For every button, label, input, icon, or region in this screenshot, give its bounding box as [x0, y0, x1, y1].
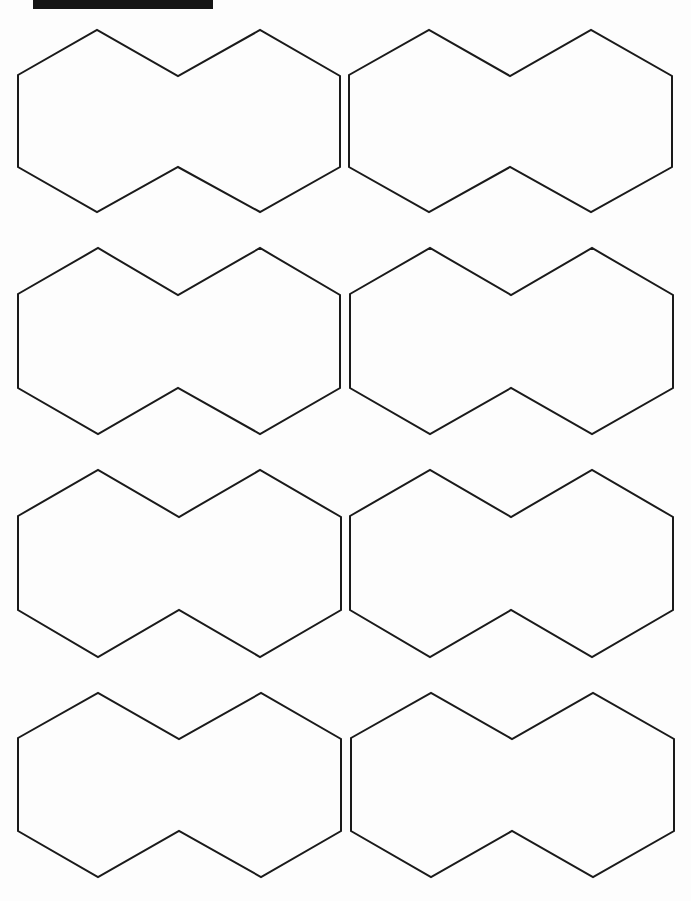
- double-hexagon-r3-c2: [350, 470, 673, 657]
- double-hexagon-r1-c1: [18, 30, 340, 212]
- shape-sheet: [0, 0, 691, 901]
- double-hexagon-r2-c2: [350, 248, 673, 434]
- double-hexagon-r4-c1: [18, 693, 341, 877]
- double-hexagon-r4-c2: [351, 693, 674, 877]
- double-hexagon-r2-c1: [18, 248, 340, 434]
- double-hexagon-r3-c1: [18, 470, 341, 657]
- double-hexagon-r1-c2: [349, 30, 672, 212]
